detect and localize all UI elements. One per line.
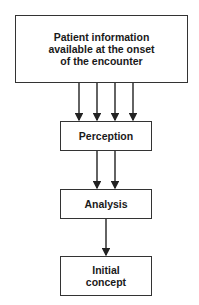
node-perception: Perception	[60, 121, 152, 151]
node-patient-info-line-2: available at the onset	[48, 43, 154, 55]
node-analysis-label: Analysis	[84, 198, 127, 210]
node-initial-concept: Initial concept	[60, 256, 152, 296]
node-analysis: Analysis	[60, 189, 152, 219]
node-initial-concept-line-1: Initial	[86, 264, 126, 276]
node-initial-concept-line-2: concept	[86, 276, 126, 288]
node-patient-info: Patient information available at the ons…	[15, 15, 188, 83]
node-perception-label: Perception	[79, 130, 133, 142]
node-patient-info-line-1: Patient information	[48, 31, 154, 43]
node-patient-info-line-3: of the encounter	[48, 55, 154, 67]
